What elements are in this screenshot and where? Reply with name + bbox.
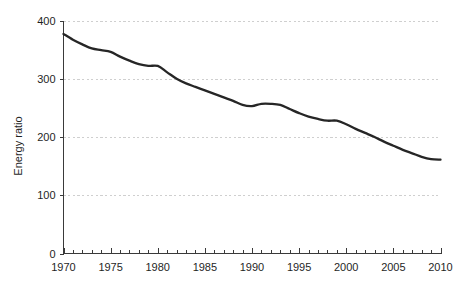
y-tick-label-0: 0 [49,248,55,260]
x-tick-label-1995: 1995 [287,261,311,273]
chart-figure: 0100200300400 19701975198019851990199520… [0,0,463,288]
y-tick-label-100: 100 [37,189,55,201]
x-tick-label-1975: 1975 [98,261,122,273]
x-tick-label-1970: 1970 [51,261,75,273]
x-tick-label-2010: 2010 [428,261,452,273]
y-tick-label-200: 200 [37,131,55,143]
y-tick-label-300: 300 [37,73,55,85]
energy-ratio-line-chart: 0100200300400 19701975198019851990199520… [0,0,463,288]
x-tick-label-1985: 1985 [193,261,217,273]
y-axis-title: Energy ratio [12,116,24,175]
y-tick-label-400: 400 [37,15,55,27]
x-tick-label-2000: 2000 [334,261,358,273]
x-tick-label-1980: 1980 [146,261,170,273]
chart-background [0,0,463,288]
x-tick-labels-group: 197019751980198519901995200020052010 [51,261,452,273]
x-tick-label-1990: 1990 [240,261,264,273]
x-tick-label-2005: 2005 [381,261,405,273]
